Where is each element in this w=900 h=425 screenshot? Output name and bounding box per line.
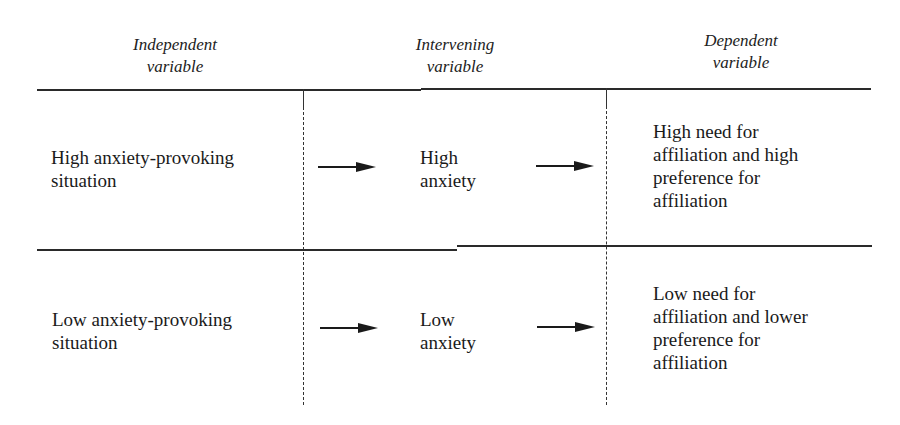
cell-line: preference for [653, 328, 808, 351]
header-line: Intervening [380, 34, 530, 56]
cell-line: anxiety [420, 331, 476, 354]
column-divider-2 [606, 106, 607, 405]
top-rule [37, 89, 421, 91]
row-1-dependent: High need for affiliation and high prefe… [653, 120, 798, 212]
header-line: variable [666, 52, 816, 74]
header-dependent-variable: Dependent variable [666, 30, 816, 74]
header-line: variable [380, 56, 530, 78]
top-rule [421, 88, 871, 90]
cell-line: Low anxiety-provoking [52, 308, 232, 331]
row-2-independent: Low anxiety-provoking situation [52, 308, 232, 354]
cell-line: situation [51, 169, 234, 192]
column-divider-tick [606, 88, 607, 106]
cell-line: affiliation and high [653, 143, 798, 166]
cell-line: affiliation [653, 189, 798, 212]
cell-line: affiliation [653, 351, 808, 374]
middle-rule [457, 245, 872, 247]
row-1-independent: High anxiety-provoking situation [51, 146, 234, 192]
header-line: Independent [90, 34, 260, 56]
row-1-intervening: High anxiety [420, 146, 476, 192]
cell-line: High anxiety-provoking [51, 146, 234, 169]
right-arrow-icon [320, 322, 380, 334]
cell-line: High [420, 146, 476, 169]
cell-line: Low [420, 308, 476, 331]
cell-line: preference for [653, 166, 798, 189]
header-independent-variable: Independent variable [90, 34, 260, 78]
cell-line: Low need for [653, 282, 808, 305]
cell-line: situation [52, 331, 232, 354]
right-arrow-icon [536, 160, 596, 172]
column-divider-tick [303, 89, 304, 107]
column-divider-1 [303, 107, 304, 405]
cell-line: High need for [653, 120, 798, 143]
header-line: variable [90, 56, 260, 78]
right-arrow-icon [537, 321, 597, 333]
right-arrow-icon [318, 161, 378, 173]
header-intervening-variable: Intervening variable [380, 34, 530, 78]
row-2-dependent: Low need for affiliation and lower prefe… [653, 282, 808, 374]
cell-line: anxiety [420, 169, 476, 192]
middle-rule [37, 249, 457, 251]
cell-line: affiliation and lower [653, 305, 808, 328]
row-2-intervening: Low anxiety [420, 308, 476, 354]
header-line: Dependent [666, 30, 816, 52]
